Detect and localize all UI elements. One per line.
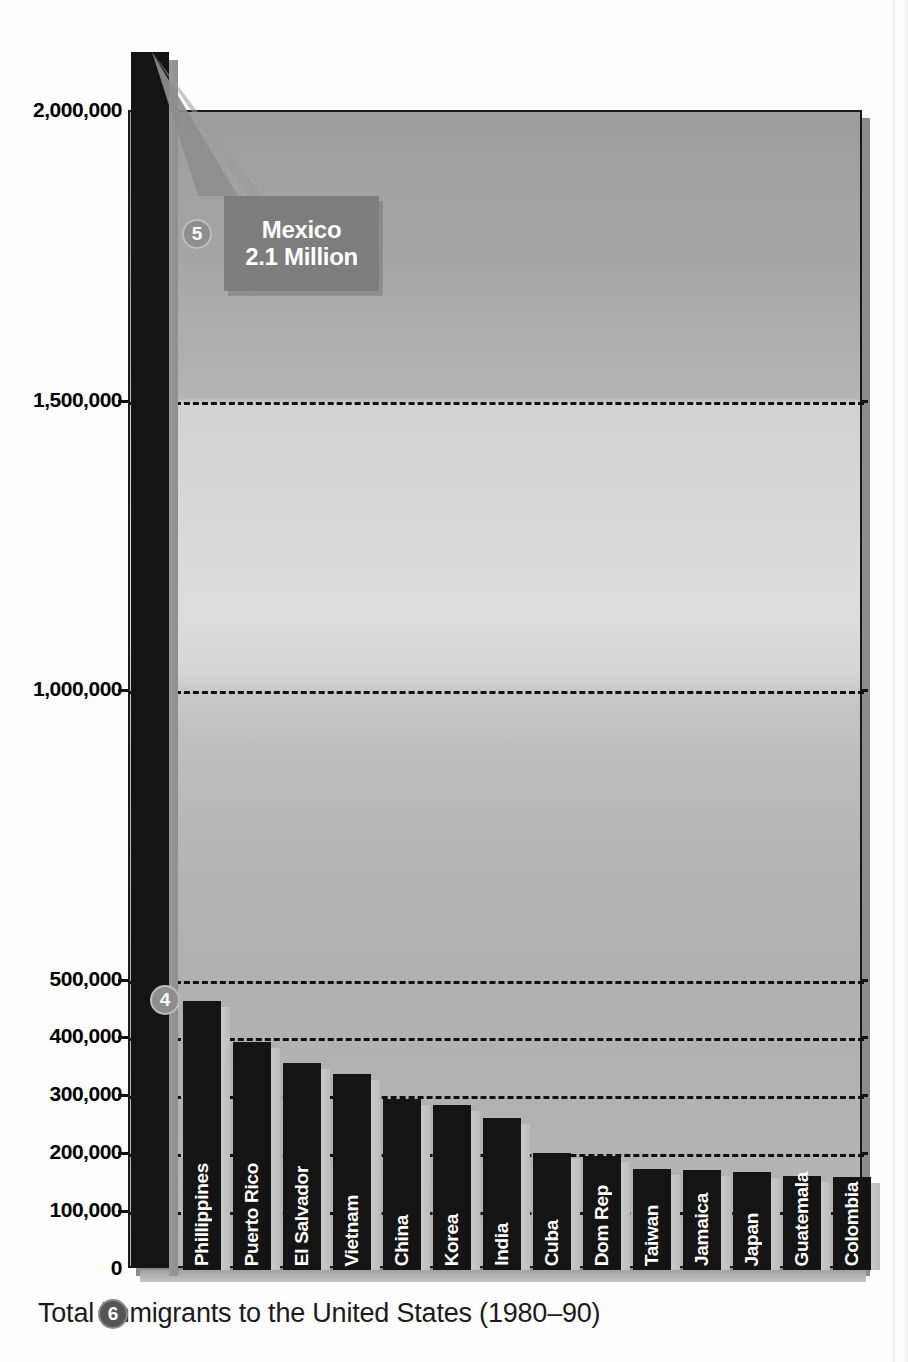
marker-6[interactable]: 6 [98,1299,128,1329]
marker-5[interactable]: 5 [182,219,212,249]
callout-box: Mexico 2.1 Million [224,196,379,291]
caption: 6 Total immigrants to the United States … [0,1298,880,1329]
marker-4[interactable]: 4 [150,985,180,1015]
callout-line-2: 2.1 Million [245,244,358,271]
callout-line-1: Mexico [262,217,342,244]
callout-pointer [0,0,908,1362]
chart-page: 2,000,0001,500,0001,000,000500,000400,00… [0,0,908,1362]
